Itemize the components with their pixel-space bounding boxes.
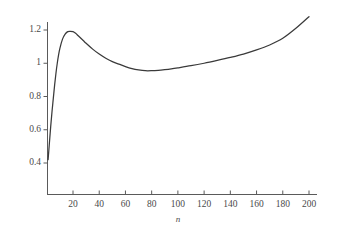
y-tick-label: 0.4 — [8, 158, 41, 168]
x-tick-label: 160 — [249, 200, 263, 210]
data-series-curve — [48, 17, 309, 160]
x-tick-label: 120 — [197, 200, 211, 210]
x-tick-label: 200 — [302, 200, 316, 210]
x-tick-label: 140 — [223, 200, 237, 210]
y-tick-label: 1 — [8, 59, 41, 69]
x-axis-title: n — [176, 214, 181, 224]
y-tick-label: 0.6 — [8, 125, 41, 135]
x-tick-label: 20 — [68, 200, 78, 210]
x-tick-marks — [73, 191, 309, 195]
x-tick-label: 100 — [171, 200, 185, 210]
x-tick-label: 180 — [276, 200, 290, 210]
x-tick-label: 60 — [121, 200, 131, 210]
figure-container: 0.40.60.811.2 20406080100120140160180200… — [0, 0, 341, 234]
y-tick-marks — [44, 30, 48, 163]
x-tick-label: 40 — [94, 200, 104, 210]
x-tick-label: 80 — [147, 200, 157, 210]
y-tick-label: 0.8 — [8, 92, 41, 102]
y-tick-label: 1.2 — [8, 25, 41, 35]
